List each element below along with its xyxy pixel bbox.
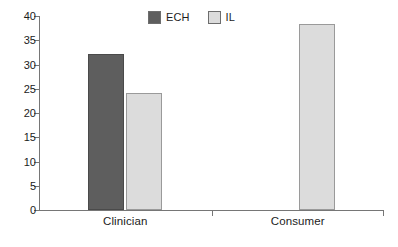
y-axis-tick-label: 30: [6, 60, 36, 71]
bar-chart: ECH IL 0510152025303540 ClinicianConsume…: [0, 0, 398, 247]
y-axis-tick-label: 15: [6, 132, 36, 143]
y-axis-tick-label: 25: [6, 84, 36, 95]
x-axis-tick: [383, 211, 384, 216]
x-axis-tick: [212, 211, 213, 216]
bar-clinician-il: [126, 93, 162, 210]
bar-clinician-ech: [88, 54, 124, 210]
y-axis-tick-label: 5: [6, 181, 36, 192]
y-axis-tick-label: 20: [6, 108, 36, 119]
plot-area: 0510152025303540 ClinicianConsumer: [39, 16, 384, 211]
bar-consumer-il: [299, 24, 335, 210]
x-axis-label-consumer: Consumer: [238, 215, 358, 227]
y-axis-tick-label: 10: [6, 157, 36, 168]
y-axis-line: [39, 16, 40, 211]
y-axis-tick-label: 0: [6, 205, 36, 216]
y-axis-tick-label: 40: [6, 11, 36, 22]
y-axis-tick-label: 35: [6, 35, 36, 46]
x-axis-label-clinician: Clinician: [65, 215, 185, 227]
